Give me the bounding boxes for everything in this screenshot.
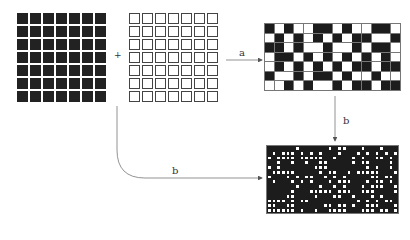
grid-cell: [342, 62, 351, 71]
grid-cell: [304, 43, 313, 52]
grid-cell: [342, 72, 351, 81]
grid-cell: [294, 72, 303, 81]
grid-cell: [304, 53, 313, 62]
grid-cell: [391, 34, 400, 43]
grid-cell: [294, 43, 303, 52]
grid-cell: [304, 24, 313, 33]
grid-cell: [372, 43, 381, 52]
arrow-b-curve-label: b: [172, 166, 178, 176]
grid-cell: [265, 53, 274, 62]
grid-cell: [381, 43, 390, 52]
grid-cell: [381, 81, 390, 90]
grid-cell: [284, 53, 293, 62]
grid-cell: [294, 53, 303, 62]
grid-cell: [391, 81, 400, 90]
grid-cell: [265, 34, 274, 43]
grid-cell: [393, 208, 398, 213]
grid-cell: [275, 53, 284, 62]
grid-cell: [342, 81, 351, 90]
grid-cell: [333, 24, 342, 33]
grid-cell: [372, 81, 381, 90]
grid-cell: [352, 62, 361, 71]
grid-cell: [372, 34, 381, 43]
grid-cell: [313, 43, 322, 52]
grid-cell: [323, 62, 332, 71]
grid-cell: [362, 72, 371, 81]
grid-cell: [391, 72, 400, 81]
grid-cell: [265, 72, 274, 81]
grid-cell: [323, 24, 332, 33]
grid-cell: [372, 24, 381, 33]
grid-cell: [381, 34, 390, 43]
grid-cell: [284, 24, 293, 33]
grid-cell: [294, 24, 303, 33]
grid-cell: [265, 24, 274, 33]
grid-cell: [362, 43, 371, 52]
grid-cell: [284, 43, 293, 52]
grid-cell: [391, 43, 400, 52]
grid-cell: [294, 81, 303, 90]
grid-cell: [333, 62, 342, 71]
grid-cell: [342, 34, 351, 43]
grid-cell: [304, 81, 313, 90]
grid-cell: [352, 34, 361, 43]
grid-cell: [362, 24, 371, 33]
grid-cell: [372, 53, 381, 62]
grid-cell: [323, 53, 332, 62]
grid-cell: [352, 24, 361, 33]
grid-cell: [333, 43, 342, 52]
result-grid-b: [266, 145, 399, 214]
grid-cell: [275, 24, 284, 33]
grid-cell: [362, 34, 371, 43]
arrow-a-label: a: [239, 48, 245, 58]
grid-cell: [352, 53, 361, 62]
grid-cell: [323, 72, 332, 81]
grid-cell: [275, 34, 284, 43]
grid-cell: [304, 62, 313, 71]
grid-cell: [333, 34, 342, 43]
grid-cell: [275, 72, 284, 81]
grid-cell: [342, 24, 351, 33]
grid-cell: [284, 62, 293, 71]
grid-cell: [381, 72, 390, 81]
grid-cell: [391, 53, 400, 62]
grid-cell: [284, 81, 293, 90]
grid-cell: [313, 24, 322, 33]
grid-cell: [304, 34, 313, 43]
grid-cell: [352, 43, 361, 52]
grid-cell: [342, 43, 351, 52]
arrow-b-down-label: b: [343, 116, 349, 126]
grid-cell: [313, 53, 322, 62]
grid-cell: [372, 62, 381, 71]
grid-cell: [352, 72, 361, 81]
grid-cell: [265, 81, 274, 90]
grid-cell: [294, 34, 303, 43]
grid-cell: [362, 81, 371, 90]
grid-cell: [323, 81, 332, 90]
grid-cell: [275, 81, 284, 90]
grid-cell: [265, 43, 274, 52]
grid-cell: [284, 34, 293, 43]
result-grid-a: [264, 23, 401, 91]
arrow-b-curve: [117, 106, 262, 178]
grid-cell: [362, 53, 371, 62]
grid-cell: [381, 62, 390, 71]
grid-cell: [391, 62, 400, 71]
grid-cell: [294, 62, 303, 71]
grid-cell: [333, 72, 342, 81]
grid-cell: [313, 62, 322, 71]
grid-cell: [323, 43, 332, 52]
grid-cell: [333, 81, 342, 90]
grid-cell: [275, 43, 284, 52]
grid-cell: [313, 72, 322, 81]
grid-cell: [333, 53, 342, 62]
grid-cell: [352, 81, 361, 90]
grid-cell: [372, 72, 381, 81]
grid-cell: [323, 34, 332, 43]
grid-cell: [381, 24, 390, 33]
grid-cell: [284, 72, 293, 81]
grid-cell: [304, 72, 313, 81]
grid-cell: [362, 62, 371, 71]
grid-cell: [313, 81, 322, 90]
grid-cell: [265, 62, 274, 71]
